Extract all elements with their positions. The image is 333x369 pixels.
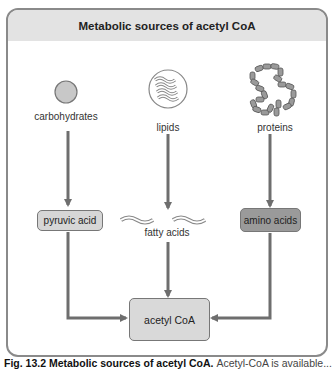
fatty-acids-label: fatty acids: [144, 227, 189, 238]
carbohydrates-label: carbohydrates: [34, 111, 97, 122]
amino-acids-label: amino acids: [244, 215, 297, 226]
amino-acids-box: amino acids: [240, 208, 301, 232]
carbohydrate-circle-icon: [55, 81, 77, 103]
lipid-waves-icon: [149, 70, 187, 108]
arrow-pyruvic-to-acetyl: [68, 232, 126, 318]
caption-bold: Fig. 13.2 Metabolic sources of acetyl Co…: [4, 357, 213, 369]
arrow-amino-to-acetyl: [212, 233, 270, 318]
acetyl-coa-label: acetyl CoA: [144, 314, 195, 326]
pyruvic-acid-label: pyruvic acid: [44, 215, 97, 226]
pyruvic-acid-box: pyruvic acid: [37, 210, 103, 231]
fatty-acid-squiggle-icon: [121, 218, 205, 223]
acetyl-coa-box: acetyl CoA: [129, 298, 210, 341]
protein-chain-icon: [250, 63, 296, 116]
caption-rest: Acetyl-CoA is available...: [216, 357, 332, 369]
figure-caption: Fig. 13.2 Metabolic sources of acetyl Co…: [4, 357, 332, 369]
proteins-label: proteins: [257, 122, 293, 133]
lipids-label: lipids: [157, 122, 180, 133]
